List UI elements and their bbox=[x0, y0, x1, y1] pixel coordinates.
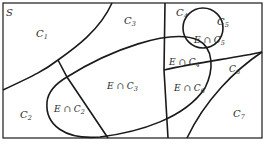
label-e-cap-c5: E ∩ C5 bbox=[193, 35, 225, 47]
label-e-cap-c3: E ∩ C3 bbox=[106, 81, 138, 93]
partition-venn-diagram: S C1 C2 C3 C4 C5 C6 C7 E ∩ C2 E ∩ C3 E ∩… bbox=[0, 0, 266, 150]
label-c1: C1 bbox=[36, 28, 48, 41]
boundary-c1-c3 bbox=[3, 3, 112, 90]
label-c4: C4 bbox=[176, 7, 188, 20]
label-c7: C7 bbox=[233, 108, 246, 121]
label-e-cap-c4: E ∩ C4 bbox=[168, 57, 200, 69]
label-c2: C2 bbox=[20, 109, 32, 122]
label-c3: C3 bbox=[124, 15, 136, 28]
sample-space-label: S bbox=[6, 7, 13, 18]
label-e-cap-c6: E ∩ C6 bbox=[173, 83, 205, 95]
label-e-cap-c2: E ∩ C2 bbox=[53, 104, 85, 116]
boundary-c2-c3 bbox=[58, 60, 108, 138]
